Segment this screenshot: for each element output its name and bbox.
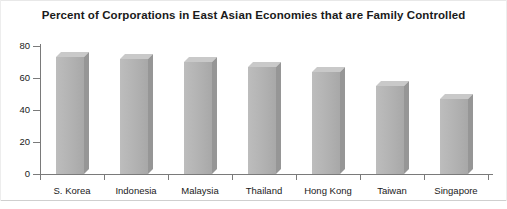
bar-taiwan <box>376 86 404 174</box>
bar-singapore <box>440 99 468 174</box>
y-tick-mark <box>33 78 40 79</box>
y-tick-label: 60 <box>4 73 30 83</box>
y-tick-mark <box>33 46 40 47</box>
bar-indonesia <box>120 59 148 174</box>
x-tick-mark <box>296 174 297 180</box>
chart-screenshot: Percent of Corporations in East Asian Ec… <box>0 0 507 209</box>
bar-side-face <box>84 52 89 174</box>
bar-side-face <box>340 67 345 174</box>
bar-side-face <box>148 54 153 174</box>
x-tick-mark <box>168 174 169 180</box>
x-tick-mark <box>360 174 361 180</box>
bar-side-face <box>212 57 217 174</box>
y-axis-line <box>40 44 41 175</box>
bar-malaysia <box>184 62 212 174</box>
plot-area: 020406080 S. KoreaIndonesiaMalaysiaThail… <box>0 0 507 209</box>
x-axis-label: Singapore <box>418 186 494 196</box>
y-tick-mark <box>33 110 40 111</box>
x-tick-mark <box>40 174 41 180</box>
bar-thailand <box>248 67 276 174</box>
y-tick-label: 40 <box>4 105 30 115</box>
bar-s-korea <box>56 57 84 174</box>
x-tick-mark <box>232 174 233 180</box>
y-tick-label: 80 <box>4 41 30 51</box>
bar-side-face <box>276 62 281 174</box>
y-tick-mark <box>33 174 40 175</box>
x-tick-mark <box>424 174 425 180</box>
bar-hong-kong <box>312 72 340 174</box>
bar-side-face <box>468 94 473 174</box>
bar-side-face <box>404 81 409 174</box>
y-tick-label: 20 <box>4 137 30 147</box>
y-tick-label: 0 <box>4 169 30 179</box>
x-tick-mark <box>488 174 489 180</box>
x-tick-mark <box>104 174 105 180</box>
y-tick-mark <box>33 142 40 143</box>
